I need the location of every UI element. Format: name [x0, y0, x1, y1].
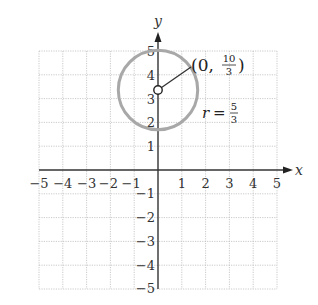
center-den: 3	[226, 66, 232, 77]
x-tick: −2	[99, 176, 118, 191]
x-tick-labels: −5 −4 −3 −2 −1 1 2 3 4 5	[29, 176, 281, 191]
x-tick: −5	[29, 176, 48, 191]
center-num: 10	[223, 53, 236, 64]
center-close: )	[238, 55, 245, 75]
x-tick: 2	[201, 176, 209, 191]
y-tick: −4	[136, 258, 155, 273]
y-axis-label: y	[153, 13, 163, 29]
y-tick: −5	[136, 281, 155, 296]
radius-annotation: r = 5 3	[202, 101, 238, 125]
x-axis-label: x	[295, 162, 303, 178]
y-tick: −1	[136, 186, 155, 201]
y-tick: −3	[136, 234, 155, 249]
x-tick: 3	[225, 176, 233, 191]
center-annotation: (0, 10 3 )	[191, 53, 245, 77]
x-tick: 1	[178, 176, 186, 191]
radius-num: 5	[231, 101, 237, 112]
x-tick: −3	[77, 176, 96, 191]
center-point	[154, 86, 162, 94]
x-tick: −4	[53, 176, 72, 191]
radius-segment	[158, 67, 191, 90]
x-axis-arrow-icon	[283, 167, 293, 174]
center-open: (0,	[191, 55, 214, 75]
y-axis-arrow-icon	[155, 32, 162, 42]
y-tick: 1	[147, 139, 155, 154]
y-tick: −2	[136, 210, 155, 225]
x-tick: 5	[273, 176, 281, 191]
radius-den: 3	[231, 114, 237, 125]
y-tick: 4	[147, 68, 155, 83]
circle-graph: x y −5 −4 −3 −2 −1 1 2 3 4 5 1 2 3 4 5 −…	[0, 0, 318, 305]
y-tick: 3	[147, 92, 155, 107]
x-tick: 4	[249, 176, 257, 191]
radius-var: r	[202, 104, 210, 122]
radius-eq: =	[213, 104, 226, 122]
